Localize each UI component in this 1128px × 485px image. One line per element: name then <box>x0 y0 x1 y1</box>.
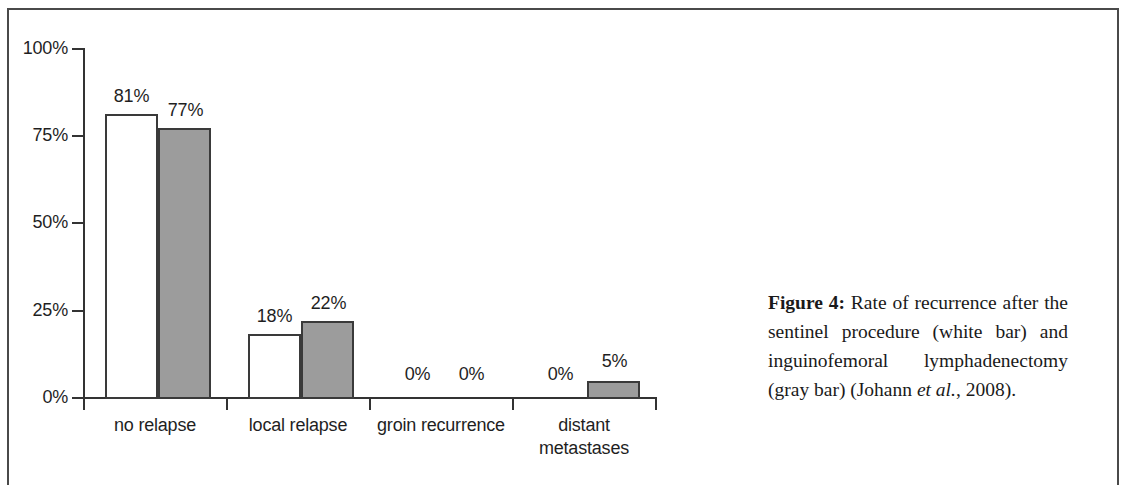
x-tick-mark-3 <box>512 399 514 410</box>
y-tick-label-25: 25% <box>4 300 68 321</box>
figure-caption: Figure 4: Rate of recurrence after the s… <box>768 288 1068 404</box>
bar-value-groin-recurrence-lymphadenectomy: 0% <box>440 364 503 385</box>
y-tick-mark-25 <box>72 310 84 312</box>
x-category-label-groin-recurrence: groin recurrence <box>365 414 517 437</box>
bar-no-relapse-lymphadenectomy <box>158 128 211 399</box>
x-tick-mark-2 <box>369 399 371 410</box>
y-tick-label-0: 0% <box>4 387 68 408</box>
y-tick-mark-100 <box>72 48 84 50</box>
bar-chart: 100% 75% 50% 25% 0% 81% 77% 18% 22% 0% 0… <box>0 0 700 485</box>
bar-value-no-relapse-lymphadenectomy: 77% <box>154 100 217 121</box>
bar-local-relapse-lymphadenectomy <box>301 321 354 399</box>
bar-no-relapse-sentinel <box>105 114 158 399</box>
x-tick-mark-0 <box>83 399 85 410</box>
page-frame-right-border <box>1117 8 1119 485</box>
bar-distant-metastases-lymphadenectomy <box>587 381 640 399</box>
x-category-label-no-relapse: no relapse <box>85 414 225 437</box>
bar-value-local-relapse-lymphadenectomy: 22% <box>297 293 360 314</box>
x-tick-mark-1 <box>226 399 228 410</box>
x-category-label-distant-metastases: distant metastases <box>514 414 654 460</box>
x-tick-mark-4 <box>655 399 657 410</box>
y-tick-mark-50 <box>72 222 84 224</box>
figure-caption-text-part2: , 2008). <box>956 379 1016 400</box>
y-tick-mark-75 <box>72 135 84 137</box>
x-category-label-local-relapse: local relapse <box>228 414 368 437</box>
figure-caption-et-al: et al. <box>917 379 956 400</box>
x-category-label-distant-metastases-line2: metastases <box>514 437 654 460</box>
y-tick-label-50: 50% <box>4 212 68 233</box>
y-tick-label-100: 100% <box>4 38 68 59</box>
figure-page: 100% 75% 50% 25% 0% 81% 77% 18% 22% 0% 0… <box>0 0 1128 485</box>
y-tick-label-75: 75% <box>4 125 68 146</box>
figure-number-label: Figure 4: <box>768 292 845 313</box>
x-category-label-distant-metastases-line1: distant <box>514 414 654 437</box>
bar-value-distant-metastases-lymphadenectomy: 5% <box>583 351 646 372</box>
bar-local-relapse-sentinel <box>248 334 301 399</box>
